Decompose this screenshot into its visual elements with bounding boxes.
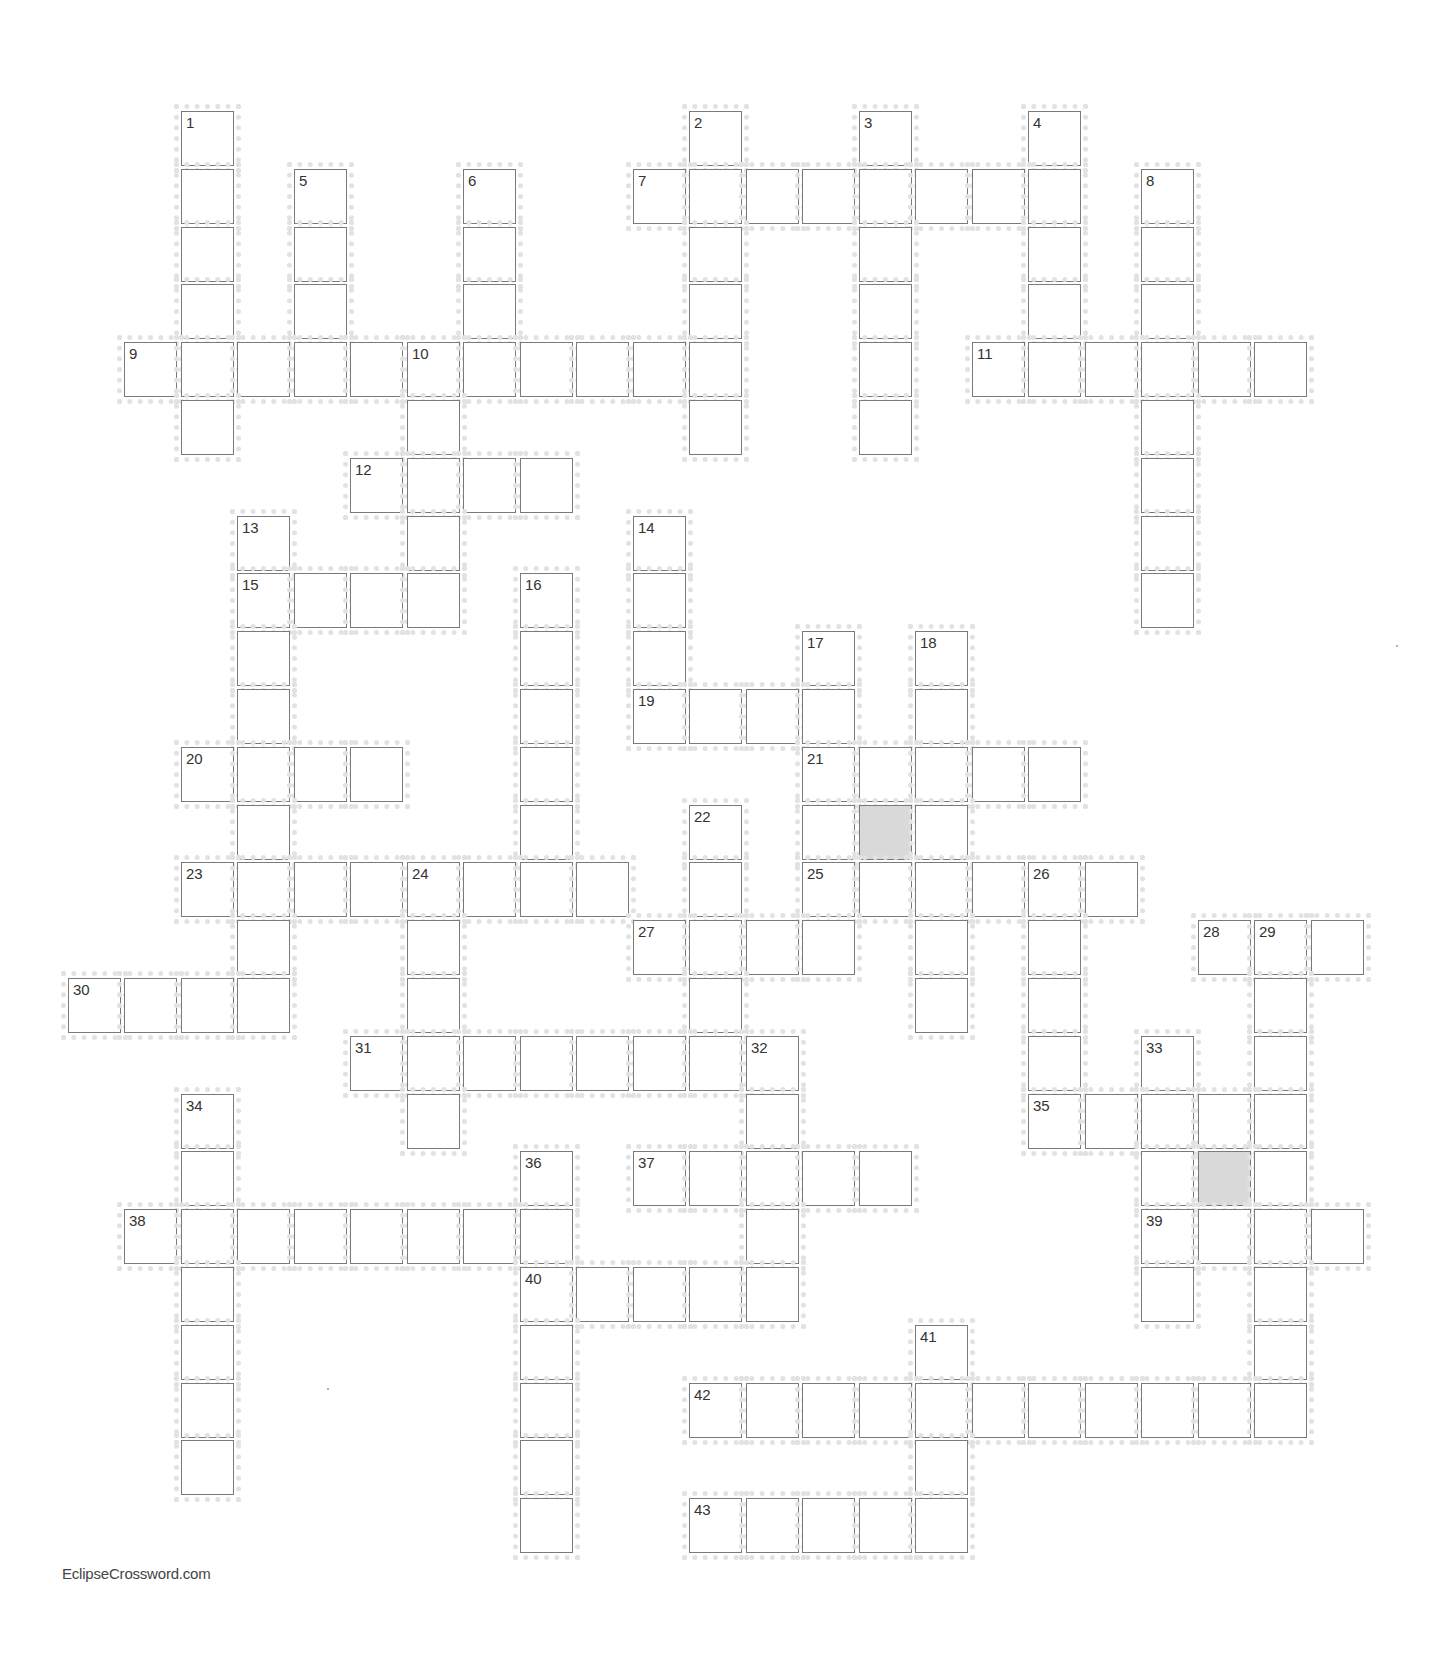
crossword-cell[interactable]	[124, 978, 177, 1033]
numbered-cell[interactable]: 13	[237, 516, 290, 571]
crossword-cell[interactable]	[802, 689, 855, 744]
crossword-cell[interactable]	[407, 1209, 460, 1264]
numbered-cell[interactable]: 19	[633, 689, 686, 744]
crossword-cell[interactable]	[802, 1151, 855, 1206]
crossword-cell[interactable]	[407, 1036, 460, 1091]
crossword-cell[interactable]	[463, 862, 516, 917]
crossword-cell[interactable]	[1254, 1267, 1307, 1322]
crossword-cell[interactable]	[1028, 978, 1081, 1033]
crossword-cell[interactable]	[689, 342, 742, 397]
crossword-cell[interactable]	[1028, 227, 1081, 282]
crossword-cell[interactable]	[576, 1267, 629, 1322]
numbered-cell[interactable]: 2	[689, 111, 742, 166]
crossword-cell[interactable]	[520, 747, 573, 802]
numbered-cell[interactable]: 14	[633, 516, 686, 571]
crossword-cell[interactable]	[859, 862, 912, 917]
crossword-cell[interactable]	[350, 862, 403, 917]
crossword-cell[interactable]	[294, 1209, 347, 1264]
crossword-cell[interactable]	[181, 227, 234, 282]
numbered-cell[interactable]: 20	[181, 747, 234, 802]
crossword-cell[interactable]	[633, 342, 686, 397]
crossword-cell[interactable]	[294, 342, 347, 397]
numbered-cell[interactable]: 1	[181, 111, 234, 166]
crossword-cell[interactable]	[689, 1151, 742, 1206]
crossword-cell[interactable]	[1141, 573, 1194, 628]
crossword-cell[interactable]	[1028, 747, 1081, 802]
crossword-cell[interactable]	[407, 458, 460, 513]
crossword-cell[interactable]	[802, 920, 855, 975]
numbered-cell[interactable]: 33	[1141, 1036, 1194, 1091]
numbered-cell[interactable]: 32	[746, 1036, 799, 1091]
numbered-cell[interactable]: 8	[1141, 169, 1194, 224]
crossword-cell[interactable]	[520, 1498, 573, 1553]
crossword-cell[interactable]	[915, 747, 968, 802]
numbered-cell[interactable]: 22	[689, 805, 742, 860]
numbered-cell[interactable]: 6	[463, 169, 516, 224]
crossword-cell[interactable]	[181, 342, 234, 397]
crossword-cell[interactable]	[802, 805, 855, 860]
crossword-cell[interactable]	[181, 284, 234, 339]
crossword-cell[interactable]	[237, 805, 290, 860]
crossword-cell[interactable]	[520, 1209, 573, 1264]
crossword-cell[interactable]	[181, 1151, 234, 1206]
crossword-cell[interactable]	[859, 400, 912, 455]
numbered-cell[interactable]: 25	[802, 862, 855, 917]
numbered-cell[interactable]: 37	[633, 1151, 686, 1206]
crossword-cell[interactable]	[294, 862, 347, 917]
numbered-cell[interactable]: 12	[350, 458, 403, 513]
crossword-cell[interactable]	[746, 1094, 799, 1149]
crossword-cell[interactable]	[294, 284, 347, 339]
crossword-cell[interactable]	[463, 1209, 516, 1264]
crossword-cell[interactable]	[181, 1440, 234, 1495]
crossword-cell[interactable]	[1254, 342, 1307, 397]
crossword-cell[interactable]	[407, 978, 460, 1033]
crossword-cell[interactable]	[689, 284, 742, 339]
numbered-cell[interactable]: 15	[237, 573, 290, 628]
crossword-cell[interactable]	[689, 920, 742, 975]
numbered-cell[interactable]: 40	[520, 1267, 573, 1322]
crossword-cell[interactable]	[1141, 284, 1194, 339]
crossword-cell[interactable]	[1198, 1209, 1251, 1264]
crossword-cell[interactable]	[1141, 1094, 1194, 1149]
crossword-cell[interactable]	[746, 689, 799, 744]
crossword-cell[interactable]	[689, 689, 742, 744]
crossword-cell[interactable]	[689, 1267, 742, 1322]
crossword-cell[interactable]	[1254, 1036, 1307, 1091]
numbered-cell[interactable]: 9	[124, 342, 177, 397]
crossword-cell[interactable]	[237, 978, 290, 1033]
crossword-cell[interactable]	[972, 862, 1025, 917]
crossword-cell[interactable]	[463, 227, 516, 282]
numbered-cell[interactable]: 39	[1141, 1209, 1194, 1264]
crossword-cell[interactable]	[181, 169, 234, 224]
crossword-cell[interactable]	[520, 689, 573, 744]
crossword-cell[interactable]	[350, 342, 403, 397]
crossword-cell[interactable]	[1198, 1094, 1251, 1149]
numbered-cell[interactable]: 29	[1254, 920, 1307, 975]
crossword-cell[interactable]	[1085, 342, 1138, 397]
crossword-cell[interactable]	[1141, 1267, 1194, 1322]
crossword-cell[interactable]	[633, 1036, 686, 1091]
crossword-cell[interactable]	[237, 862, 290, 917]
numbered-cell[interactable]: 26	[1028, 862, 1081, 917]
crossword-cell[interactable]	[294, 573, 347, 628]
crossword-cell[interactable]	[689, 227, 742, 282]
crossword-cell[interactable]	[915, 689, 968, 744]
numbered-cell[interactable]: 30	[68, 978, 121, 1033]
numbered-cell[interactable]: 41	[915, 1325, 968, 1380]
crossword-cell[interactable]	[1028, 1036, 1081, 1091]
crossword-cell[interactable]	[1085, 862, 1138, 917]
crossword-cell[interactable]	[1254, 1094, 1307, 1149]
crossword-cell[interactable]	[689, 978, 742, 1033]
numbered-cell[interactable]: 4	[1028, 111, 1081, 166]
crossword-cell[interactable]	[237, 342, 290, 397]
numbered-cell[interactable]: 28	[1198, 920, 1251, 975]
crossword-cell[interactable]	[407, 1094, 460, 1149]
crossword-cell[interactable]	[802, 169, 855, 224]
crossword-cell[interactable]	[915, 1383, 968, 1438]
numbered-cell[interactable]: 27	[633, 920, 686, 975]
crossword-cell[interactable]	[972, 169, 1025, 224]
crossword-cell[interactable]	[181, 400, 234, 455]
crossword-cell[interactable]	[689, 400, 742, 455]
crossword-cell[interactable]	[181, 1383, 234, 1438]
numbered-cell[interactable]: 24	[407, 862, 460, 917]
